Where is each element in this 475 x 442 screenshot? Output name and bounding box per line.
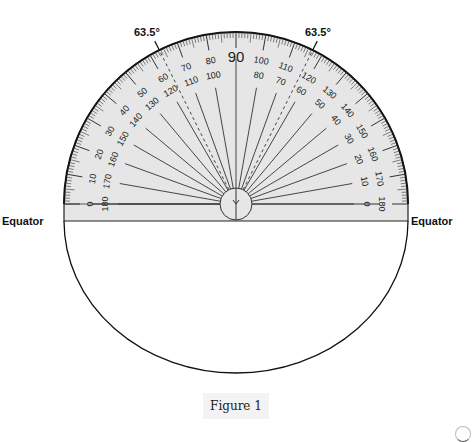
inner-scale-label: 80 xyxy=(253,70,265,82)
outer-scale-label: 10 xyxy=(87,173,99,185)
protractor: 0180101702016030150401405013060120701108… xyxy=(64,32,408,221)
inner-scale-label: 180 xyxy=(100,196,110,211)
center-90-label: 90 xyxy=(228,48,245,65)
equator-label-left: Equator xyxy=(2,215,44,227)
inner-scale-label: 0 xyxy=(362,201,372,206)
corner-circle-icon xyxy=(455,426,471,442)
outer-scale-label: 180 xyxy=(377,196,387,211)
equator-label-right: Equator xyxy=(411,215,453,227)
outer-scale-label: 80 xyxy=(205,55,217,67)
angle-label-right: 63.5° xyxy=(305,26,331,38)
outer-scale-label: 0 xyxy=(85,201,95,206)
angle-label-left: 63.5° xyxy=(134,26,160,38)
lower-hemisphere-arc xyxy=(64,221,408,373)
figure-caption: Figure 1 xyxy=(203,393,269,419)
inner-scale-label: 10 xyxy=(359,176,371,188)
